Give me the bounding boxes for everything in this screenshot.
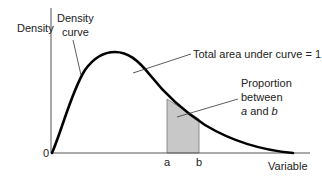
density-curve-label-2: curve: [62, 26, 89, 38]
origin-label: 0: [43, 147, 49, 159]
y-axis-label: Density: [17, 22, 54, 34]
proportion-label-1: Proportion: [241, 77, 292, 89]
proportion-leader: [177, 99, 238, 117]
total-area-label: Total area under curve = 1: [193, 48, 321, 60]
proportion-and: and: [247, 105, 271, 117]
density-curve-leader: [73, 40, 81, 75]
proportion-label-3: a and b: [241, 105, 278, 117]
tick-a-label: a: [164, 156, 171, 168]
proportion-label-2: between: [241, 91, 283, 103]
tick-b-label: b: [196, 156, 202, 168]
total-area-leader: [133, 54, 191, 73]
density-curve-label-1: Density: [57, 12, 94, 24]
proportion-b: b: [272, 105, 278, 117]
x-axis-label: Variable: [268, 160, 308, 172]
density-curve-diagram: Density Density curve Total area under c…: [0, 0, 322, 177]
shaded-area-a-to-b: [167, 99, 199, 153]
